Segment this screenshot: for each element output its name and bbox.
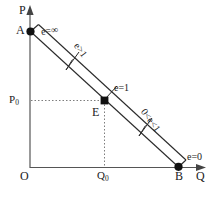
- price-axis-label: P: [19, 4, 26, 16]
- price-level-tick-sub: 0: [15, 98, 19, 107]
- origin-label: O: [20, 170, 29, 182]
- elasticity-along-demand-curve-figure: P Q O A E B P0 Q0 e=∞ e>1 e=1 0<e<1 e=0: [0, 0, 218, 201]
- point-b-label: B: [175, 170, 183, 182]
- quantity-level-tick-label: Q0: [97, 170, 109, 182]
- ribbon-tick-marks: [66, 52, 152, 136]
- price-level-tick-label: P0: [9, 94, 19, 106]
- point-a-label: A: [16, 24, 25, 36]
- quantity-axis-label: Q: [196, 170, 205, 182]
- elasticity-zero-label: e=0: [187, 152, 202, 162]
- diagram-canvas: [0, 0, 218, 201]
- point-e-dot: [101, 97, 109, 105]
- quantity-level-tick-sub: 0: [105, 174, 109, 183]
- point-a-dot: [26, 27, 34, 35]
- elasticity-unit-label: e=1: [114, 83, 129, 93]
- point-e-label: E: [92, 106, 99, 118]
- quantity-level-tick-main: Q: [97, 169, 105, 181]
